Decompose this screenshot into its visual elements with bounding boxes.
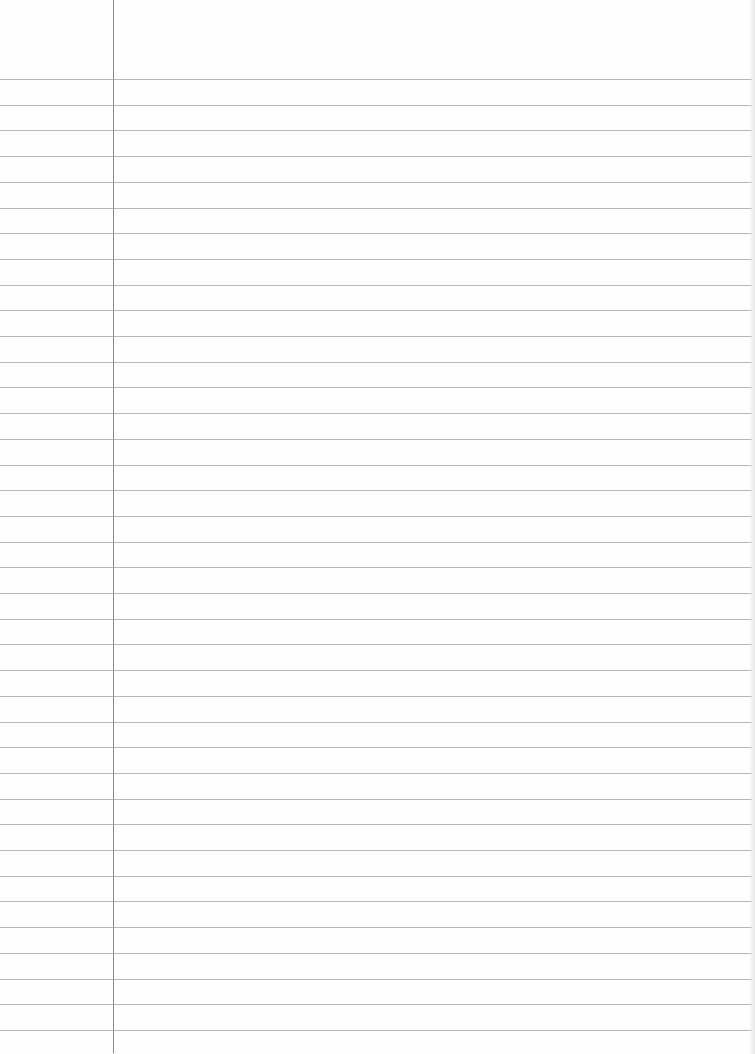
margin-line bbox=[113, 0, 114, 1053]
lined-paper-page bbox=[0, 0, 755, 1054]
page-edge-shadow bbox=[749, 0, 755, 1054]
